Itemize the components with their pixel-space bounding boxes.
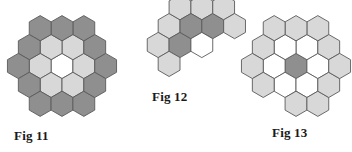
hexagon-figures-illustration: Fig 11Fig 12Fig 13 [0, 0, 352, 152]
fig-11-label: Fig 11 [14, 128, 49, 143]
fig-12-label: Fig 12 [152, 89, 188, 104]
fig-13-label: Fig 13 [272, 125, 308, 140]
